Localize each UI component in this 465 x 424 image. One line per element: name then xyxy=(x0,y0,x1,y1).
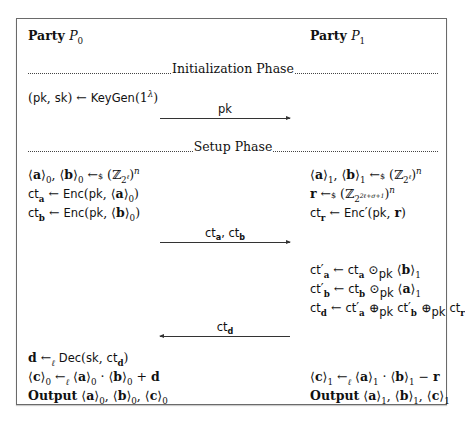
p0-output: Output ⟨a⟩0, ⟨b⟩0, ⟨c⟩0 xyxy=(28,389,168,403)
setup-phase-divider: Setup Phase xyxy=(28,140,438,154)
p1-enc-r: ctr ← Enc′(pk, r) xyxy=(310,206,406,220)
dotted-rule xyxy=(295,72,438,74)
p0-compute-c: ⟨c⟩0 ←ℓ ⟨a⟩0 · ⟨b⟩0 + d xyxy=(28,370,160,384)
p1-compute-ctb-prime: ct′b ← ctb ⊙pk ⟨a⟩1 xyxy=(310,282,421,296)
init-phase-divider: Initialization Phase xyxy=(28,62,438,76)
p1-output: Output ⟨a⟩1, ⟨b⟩1, ⟨c⟩1 xyxy=(310,389,450,403)
arrow-right-icon xyxy=(160,242,290,243)
p0-enc-b: ctb ← Enc(pk, ⟨b⟩0) xyxy=(28,206,140,220)
p1-compute-ctd: ctd ← ct′a ⊕pk ct′b ⊕pk ctr xyxy=(310,301,465,315)
dotted-rule xyxy=(28,150,193,152)
keygen-step: (pk, sk) ← KeyGen(1λ) xyxy=(28,91,158,105)
message-ctd-label: ctd xyxy=(160,320,290,334)
p0-sample-shares: ⟨a⟩0, ⟨b⟩0 ←$ (ℤ2ℓ)n xyxy=(28,168,140,184)
dotted-rule xyxy=(273,150,438,152)
dotted-rule xyxy=(28,72,171,74)
p1-compute-cta-prime: ct′a ← cta ⊙pk ⟨b⟩1 xyxy=(310,263,421,277)
p1-sample-r: r ←$ (ℤ22ℓ+σ+1)n xyxy=(310,187,395,203)
p0-decrypt-d: d ←ℓ Dec(sk, ctd) xyxy=(28,351,128,365)
arrow-left-icon xyxy=(160,336,290,337)
init-phase-label: Initialization Phase xyxy=(171,62,295,76)
message-pk-label: pk xyxy=(160,102,290,116)
setup-phase-label: Setup Phase xyxy=(193,140,274,154)
message-cta-ctb-label: cta, ctb xyxy=(160,226,290,240)
p0-enc-a: cta ← Enc(pk, ⟨a⟩0) xyxy=(28,187,139,201)
party-p0-header: Party P0 xyxy=(28,29,83,43)
arrow-right-icon xyxy=(160,118,290,119)
p1-compute-c: ⟨c⟩1 ←ℓ ⟨a⟩1 · ⟨b⟩1 − r xyxy=(310,370,440,384)
party-p1-header: Party P1 xyxy=(310,29,365,43)
p1-sample-shares: ⟨a⟩1, ⟨b⟩1 ←$ (ℤ2ℓ)n xyxy=(310,168,422,184)
